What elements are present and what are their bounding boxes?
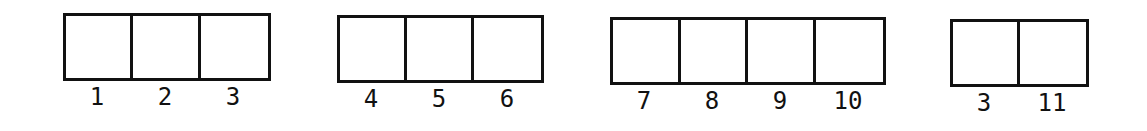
cell-row [950,19,1089,87]
cell-row [610,17,886,85]
cell-group-1: 1 2 3 [63,13,271,111]
cell-labels: 1 2 3 [63,81,271,111]
cell [66,16,133,78]
cell-label: 7 [610,87,678,115]
cell [748,20,816,82]
cell [816,20,883,82]
cell [1020,22,1086,84]
cell-label: 1 [63,83,131,111]
cell-label: 3 [950,89,1018,117]
cell [474,18,541,80]
cell-group-3: 7 8 9 10 [610,17,886,115]
cell [613,20,681,82]
cell-label: 11 [1018,89,1086,117]
cell-label: 10 [814,87,882,115]
cell [407,18,474,80]
cell [340,18,407,80]
cell-label: 2 [131,83,199,111]
cell-group-2: 4 5 6 [337,15,544,113]
cell-label: 3 [199,83,267,111]
cell-labels: 3 11 [950,87,1089,117]
cell-label: 8 [678,87,746,115]
cell [201,16,268,78]
cell-row [337,15,544,83]
cell [133,16,200,78]
cell-label: 5 [405,85,473,113]
cell-labels: 4 5 6 [337,83,544,113]
cell-row [63,13,271,81]
cell-label: 6 [473,85,541,113]
cell-group-4: 3 11 [950,19,1089,117]
cell [681,20,749,82]
cell [953,22,1020,84]
cell-label: 4 [337,85,405,113]
cell-labels: 7 8 9 10 [610,85,886,115]
cell-label: 9 [746,87,814,115]
